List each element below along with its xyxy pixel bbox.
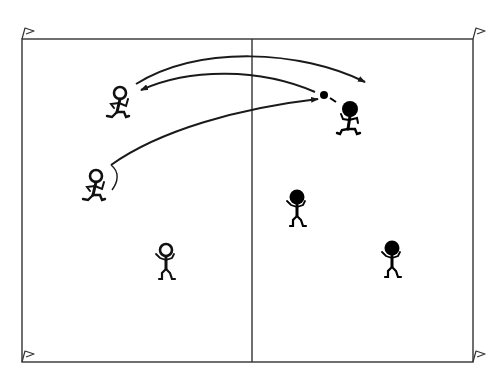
arrow-return	[141, 74, 315, 92]
player-filled-running-icon	[337, 101, 360, 134]
diagram-canvas	[0, 0, 504, 380]
court-boundary	[22, 39, 473, 362]
flag-icon	[473, 28, 485, 39]
ball-dash	[330, 98, 336, 102]
flag-icon	[22, 351, 34, 362]
player-open-running-icon	[83, 170, 105, 200]
ball-icon	[320, 91, 328, 99]
player-filled-standing-icon	[382, 241, 401, 278]
player-open-running-icon	[107, 87, 129, 117]
player-open-standing-icon	[156, 244, 175, 279]
drill-diagram	[0, 0, 504, 380]
arrow-pass-low	[111, 99, 318, 165]
player-filled-standing-icon	[287, 190, 306, 227]
flag-icon	[473, 351, 485, 362]
flag-icon	[22, 28, 34, 39]
swing-mark	[111, 165, 117, 190]
